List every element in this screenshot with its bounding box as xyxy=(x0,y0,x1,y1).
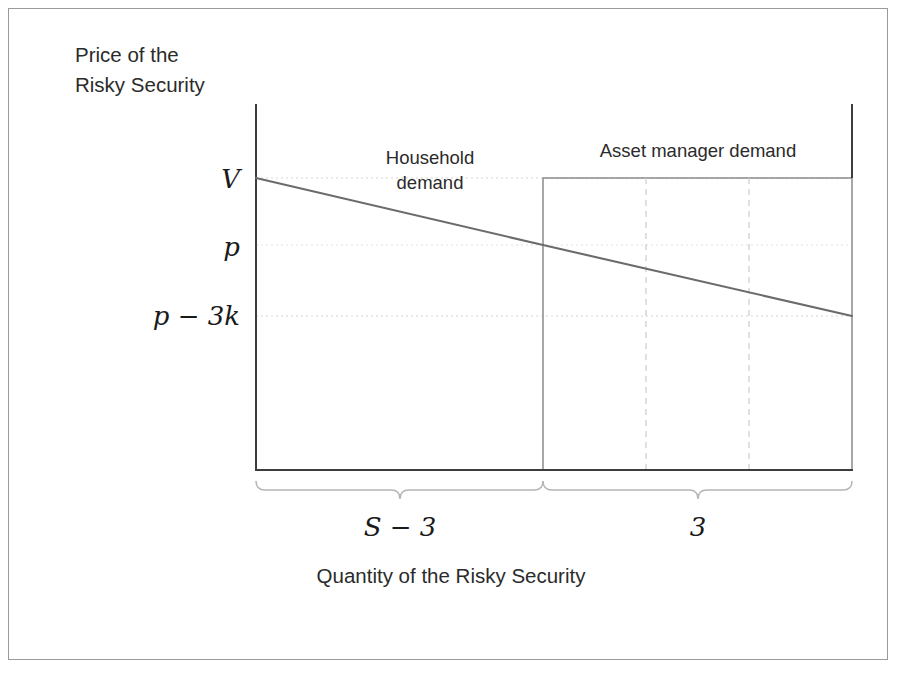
y-tick-label-v: V xyxy=(0,163,240,196)
x-axis-title: Quantity of the Risky Security xyxy=(0,563,902,589)
x-brace-label-s-minus-3: S − 3 xyxy=(310,511,490,544)
brace-asset-manager-region xyxy=(543,481,852,499)
y-tick-label-p: p xyxy=(0,231,240,264)
asset-manager-region-box xyxy=(543,178,852,470)
x-brace-label-3: 3 xyxy=(608,511,788,544)
region-label-household-demand: Household demand xyxy=(330,146,530,195)
figure-page: Price of the Risky Security Quantity of … xyxy=(0,0,902,678)
brace-household-region xyxy=(256,481,543,499)
y-axis-title: Price of the Risky Security xyxy=(75,40,205,99)
demand-curve xyxy=(256,178,852,316)
y-tick-label-p-minus-3k: p − 3k xyxy=(0,300,240,333)
region-label-asset-manager-demand: Asset manager demand xyxy=(573,139,823,164)
